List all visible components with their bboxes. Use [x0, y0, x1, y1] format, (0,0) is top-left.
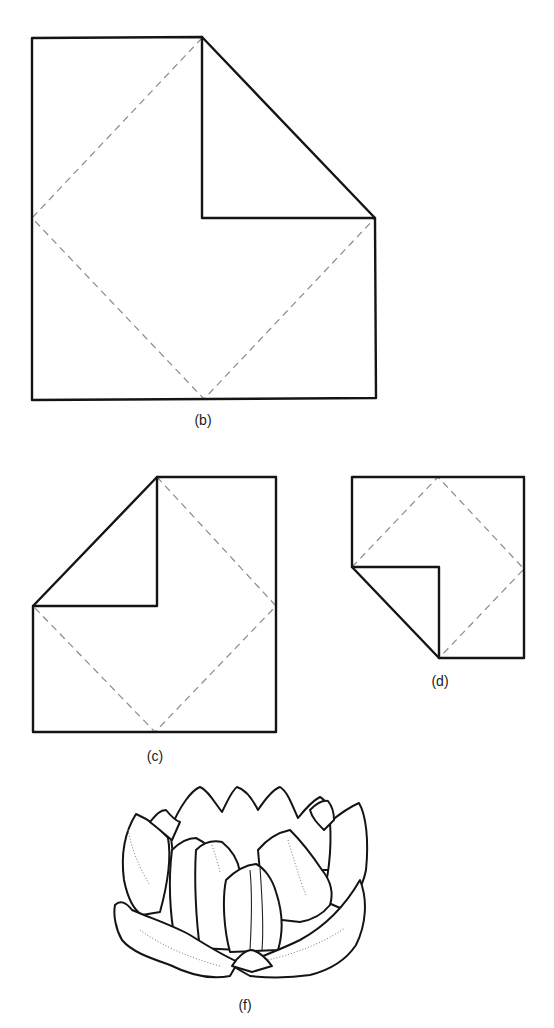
figure-label-d: (d) — [431, 673, 448, 689]
figure-label-c: (c) — [147, 748, 163, 764]
fold-line-diamond-c — [33, 477, 276, 732]
figure-b — [32, 37, 376, 400]
figure-c — [33, 477, 276, 732]
folding-diagram — [0, 0, 554, 1028]
square-outline-c — [33, 477, 276, 732]
figure-d — [352, 477, 524, 658]
figure-f-flower — [114, 787, 367, 977]
figure-page: (b) (c) (d) (f) — [0, 0, 554, 1028]
figure-label-b: (b) — [194, 412, 211, 428]
figure-label-f: (f) — [238, 997, 251, 1013]
